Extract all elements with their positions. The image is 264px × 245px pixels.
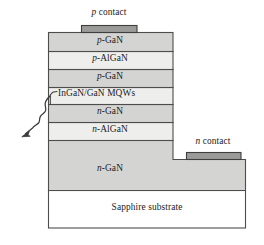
layer-label-ingan-gan-mqws: InGaN/GaN MQWs (58, 89, 135, 98)
layer-label-sapphire-substrate-text: Sapphire substrate (112, 202, 183, 212)
p-contact-label-text: contact (96, 7, 126, 17)
layer-label-n-gan-base-text: -GaN (102, 163, 123, 173)
layer-label-n-algan: n-AlGaN (92, 125, 128, 134)
layer-label-n-gan-base: n-GaN (97, 164, 123, 173)
layer-label-n-gan-upper: n-GaN (97, 107, 123, 116)
p-contact-bar (82, 26, 138, 33)
layer-label-sapphire-substrate: Sapphire substrate (112, 203, 183, 212)
layer-n-gan-base (49, 141, 246, 191)
n-contact-bar (187, 153, 242, 160)
light-emission-arrow-icon (26, 96, 51, 134)
led-cross-section-figure: p contact n contact p-GaN p-AlGaN p-GaN … (0, 0, 264, 245)
n-contact-label-text: contact (200, 136, 230, 146)
light-emission-arrowhead-icon (22, 131, 30, 137)
layer-label-p-gan-top-text: -GaN (102, 35, 123, 45)
layer-label-p-gan-lower: p-GaN (97, 72, 123, 81)
layer-label-ingan-gan-mqws-text: InGaN/GaN MQWs (58, 88, 135, 98)
layer-label-p-gan-top: p-GaN (97, 36, 123, 45)
layer-label-n-gan-upper-text: -GaN (102, 106, 123, 116)
layer-label-p-gan-lower-text: -GaN (102, 71, 123, 81)
layer-label-n-algan-text: -AlGaN (97, 124, 128, 134)
layer-label-p-algan-text: -AlGaN (97, 53, 128, 63)
p-contact-label: p contact (91, 8, 126, 17)
layer-label-p-algan: p-AlGaN (92, 54, 128, 63)
n-contact-label: n contact (195, 137, 230, 146)
